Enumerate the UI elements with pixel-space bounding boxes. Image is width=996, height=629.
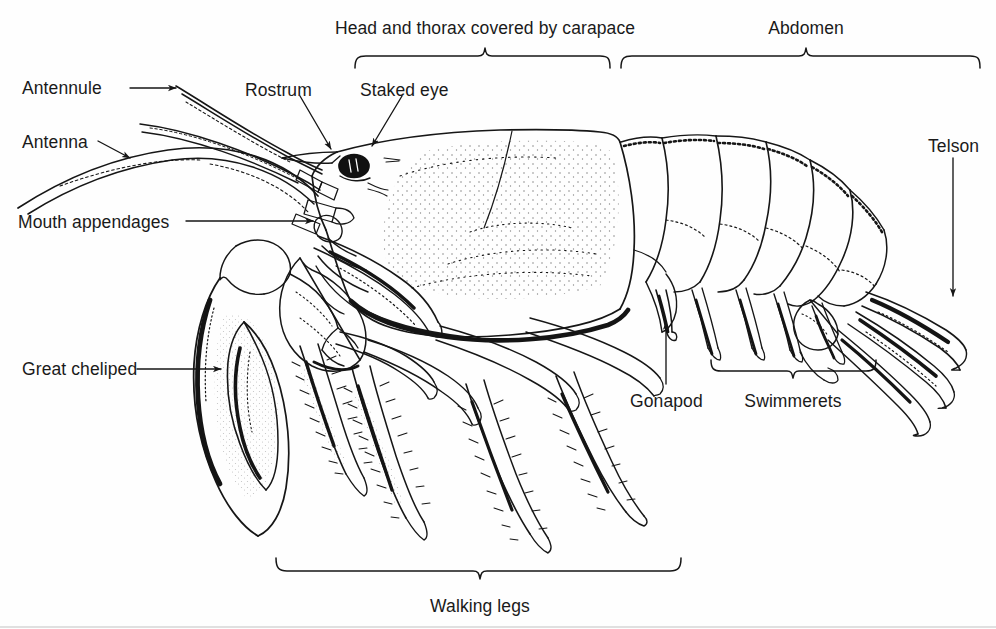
bracket-walking-legs	[276, 558, 681, 579]
tail-fan-telson	[794, 292, 967, 436]
bracket-carapace	[355, 48, 610, 68]
figure-canvas: Antennule Antenna Mouth appendages Great…	[0, 0, 996, 629]
label-gonapod: Gonapod	[630, 393, 703, 411]
abdomen-segments	[621, 135, 887, 364]
label-abdomen: Abdomen	[768, 20, 844, 38]
leader-rostrum	[300, 96, 331, 149]
bracket-swimmerets	[711, 360, 876, 378]
great-cheliped	[194, 240, 358, 536]
bracket-abdomen	[621, 48, 980, 68]
label-antenna: Antenna	[22, 134, 88, 152]
label-staked-eye: Staked eye	[360, 82, 449, 100]
label-swimmerets: Swimmerets	[744, 393, 841, 411]
label-telson: Telson	[928, 138, 979, 156]
walking-legs	[292, 318, 663, 553]
label-great-cheliped: Great cheliped	[22, 361, 137, 379]
label-rostrum: Rostrum	[245, 82, 312, 100]
label-antennule: Antennule	[22, 80, 102, 98]
leader-antenna	[98, 141, 130, 158]
crayfish-line-drawing	[0, 0, 996, 629]
stalked-eye	[339, 155, 388, 197]
label-head-thorax-carapace: Head and thorax covered by carapace	[335, 20, 635, 38]
label-mouth-appendages: Mouth appendages	[18, 214, 169, 232]
label-walking-legs: Walking legs	[430, 598, 530, 616]
antennule	[140, 86, 338, 200]
